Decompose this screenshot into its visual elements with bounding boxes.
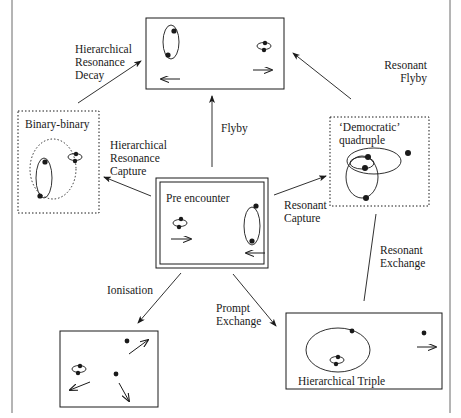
label-pre-encounter: Pre encounter [166,192,230,205]
encounter-outcome-diagram: Binary-binary ‘Democratic’ quadruple Pre… [0,0,461,418]
label-hierarchical-resonance-decay: Hierarchical Resonance Decay [75,43,132,82]
label-ionisation: Ionisation [107,284,153,297]
label-line: Hierarchical [75,43,132,56]
wide-binary-orbit-icon [163,25,179,59]
edge-resonant-exchange [364,214,376,301]
arrow-upright-icon [129,340,148,354]
star-icon [363,195,369,201]
orbit-icon [346,156,378,198]
label-line: quadruple [339,134,400,147]
orbit-icon [347,148,401,174]
star-icon [42,159,47,164]
label-line: Exchange [380,257,425,270]
edge-hierarchical-resonance-capture [104,177,151,196]
node-ionisation-result [60,331,158,407]
star-icon [37,193,42,198]
star-icon [78,364,82,368]
label-line: Resonant [380,244,425,257]
label-democratic-quadruple: ‘Democratic’ quadruple [339,121,400,147]
edge-ionisation [138,273,181,323]
star-icon [74,152,78,156]
label-resonant-exchange: Resonant Exchange [380,244,425,270]
label-flyby: Flyby [221,122,248,135]
star-icon [365,154,371,160]
star-icon [76,371,80,375]
star-icon [336,355,340,359]
node-flyby-result [146,18,284,89]
label-hierarchical-triple: Hierarchical Triple [298,375,385,388]
star-icon [263,41,267,45]
arrow-downleft-icon [70,382,90,390]
star-icon [350,329,355,334]
star-icon [114,372,119,377]
star-icon [179,217,183,221]
label-line: ‘Democratic’ [339,121,400,134]
label-binary-binary: Binary-binary [25,118,90,131]
label-resonant-capture: Resonant Capture [284,199,327,225]
edge-resonant-capture [274,176,326,195]
star-icon [73,159,77,163]
star-icon [165,52,170,57]
star-icon [405,150,411,156]
label-line: Capture [284,212,327,225]
label-line: Resonance [110,152,167,165]
star-icon [253,203,258,208]
label-hierarchical-resonance-capture: Hierarchical Resonance Capture [110,139,167,178]
label-line: Resonant [320,59,427,72]
label-line: Resonance [75,56,132,69]
label-line: Resonant [284,199,327,212]
label-line: Flyby [320,72,427,85]
star-icon [125,339,130,344]
label-line: Capture [110,165,167,178]
arrow-downright-icon [119,383,129,401]
label-line: Hierarchical [110,139,167,152]
star-icon [177,225,181,229]
star-icon [362,165,368,171]
star-icon [249,238,254,243]
outer-orbit-icon [306,328,370,372]
star-icon [334,362,338,366]
label-prompt-exchange: Prompt Exchange [216,302,261,328]
star-icon [422,331,427,336]
label-line: Exchange [216,315,261,328]
label-line: Decay [75,69,132,82]
label-line: Prompt [216,302,261,315]
star-icon [262,48,266,52]
star-icon [171,28,176,33]
label-resonant-flyby: Resonant Flyby [320,59,427,85]
